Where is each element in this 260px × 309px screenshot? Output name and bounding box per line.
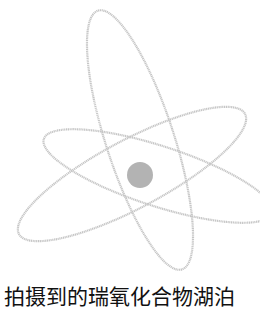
nucleus [127,162,153,188]
caption-text: 拍摄到的瑞氧化合物湖泊 [4,285,260,309]
